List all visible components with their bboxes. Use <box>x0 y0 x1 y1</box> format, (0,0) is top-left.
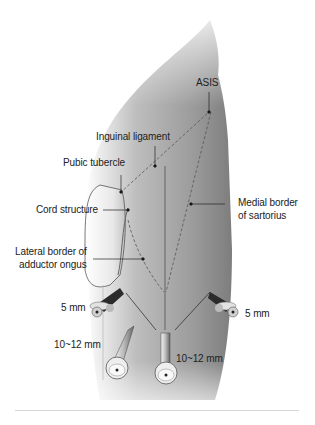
label-pubic-tubercle: Pubic tubercle <box>63 157 125 169</box>
label-lateral-border-2: adductor ongus <box>19 259 87 271</box>
label-port-left-10-12mm: 10~12 mm <box>54 339 101 351</box>
bottom-divider <box>15 410 299 411</box>
label-medial-border-2: of sartorius <box>238 210 286 222</box>
label-port-right-5mm: 5 mm <box>245 308 270 320</box>
label-medial-border-1: Medial border <box>238 197 298 209</box>
label-inguinal-ligament: Inguinal ligament <box>96 131 170 143</box>
label-cord-structure: Cord structure <box>36 204 98 216</box>
label-port-center-10-12mm: 10~12 mm <box>176 353 223 365</box>
label-lateral-border-1: Lateral border of <box>15 246 87 258</box>
contralateral-thigh <box>85 185 125 287</box>
label-asis: ASIS <box>196 77 218 89</box>
label-port-left-5mm: 5 mm <box>61 302 86 314</box>
